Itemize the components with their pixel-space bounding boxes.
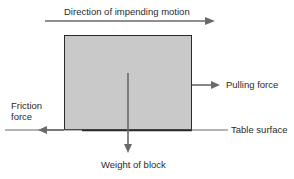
friction-label-line2: force (11, 111, 32, 122)
friction-arrow (38, 126, 64, 134)
motion-label: Direction of impending motion (64, 6, 190, 17)
pulling-force-arrow (192, 81, 220, 89)
motion-arrow (45, 17, 215, 25)
pulling-force-label: Pulling force (226, 79, 278, 90)
weight-label: Weight of block (101, 159, 166, 170)
friction-label-line1: Friction (11, 100, 42, 111)
table-surface-label: Table surface (231, 124, 288, 135)
